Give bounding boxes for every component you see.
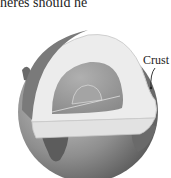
crust-label: Crust [143, 53, 169, 68]
earth-cutaway-figure [0, 0, 171, 178]
crust-pointer-dot [150, 87, 152, 89]
